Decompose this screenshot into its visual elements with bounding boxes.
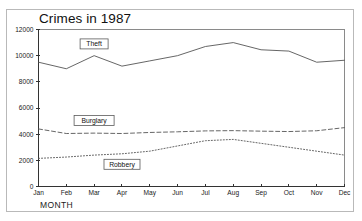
series-label-robbery: Robbery <box>104 159 140 169</box>
x-tick-label: Jan <box>33 189 44 196</box>
x-tick-label: Aug <box>227 189 239 197</box>
y-tick-label: 2000 <box>19 157 34 164</box>
x-tick-label: Oct <box>284 189 294 196</box>
x-tick-label: Apr <box>117 189 128 197</box>
series-group <box>39 43 345 159</box>
svg-text:Burglary: Burglary <box>81 117 107 125</box>
y-tick-label: 4000 <box>19 131 34 138</box>
screenshot-root: Crimes in 1987 0200040006000800010000120… <box>0 0 362 221</box>
x-axis-ticks: JanFebMarAprMayJunJulAugSepOctNovDec <box>33 184 351 198</box>
series-line-robbery <box>39 139 345 158</box>
y-tick-label: 8000 <box>19 78 34 85</box>
svg-text:Theft: Theft <box>86 40 102 47</box>
x-axis-title: MONTH <box>40 200 73 210</box>
x-tick-label: Dec <box>339 189 351 196</box>
y-tick-label: 10000 <box>15 52 34 59</box>
plot-area: 020004000600080001000012000 JanFebMarApr… <box>0 0 362 221</box>
y-tick-label: 12000 <box>15 26 34 33</box>
x-tick-label: Jun <box>172 189 183 196</box>
x-tick-label: Mar <box>88 189 100 196</box>
x-tick-label: Jul <box>201 189 210 196</box>
series-label-burglary: Burglary <box>74 115 114 125</box>
x-tick-label: Feb <box>61 189 73 196</box>
axes-group <box>39 30 345 187</box>
y-axis-ticks: 020004000600080001000012000 <box>15 26 39 190</box>
y-tick-label: 6000 <box>19 104 34 111</box>
x-tick-label: Nov <box>311 189 323 196</box>
x-tick-label: Sep <box>255 189 267 197</box>
x-tick-label: May <box>144 189 157 197</box>
line-chart-svg: 020004000600080001000012000 JanFebMarApr… <box>0 0 362 221</box>
svg-text:Robbery: Robbery <box>109 161 135 169</box>
series-label-theft: Theft <box>80 39 108 49</box>
series-annotations: TheftBurglaryRobbery <box>74 39 140 169</box>
series-line-burglary <box>39 128 345 134</box>
